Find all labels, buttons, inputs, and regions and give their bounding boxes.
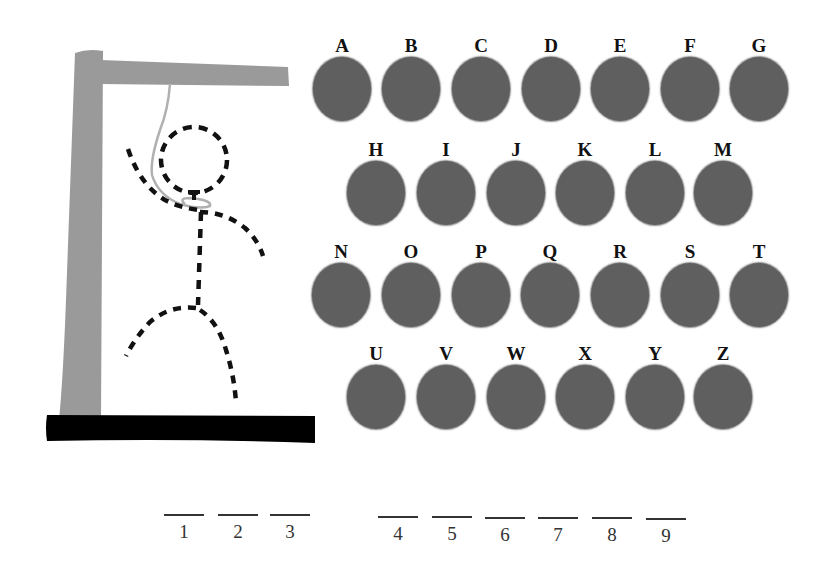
letter-blank-7: 7: [538, 517, 578, 557]
letter-disc[interactable]: [730, 263, 788, 327]
letter-key-g[interactable]: G: [729, 36, 789, 122]
blank-position-number: 8: [592, 524, 632, 546]
letter-blank-5: 5: [432, 516, 472, 556]
letter-key-u[interactable]: U: [346, 344, 406, 430]
blank-underline: [485, 517, 525, 519]
letter-key-label: O: [381, 242, 441, 262]
letter-disc[interactable]: [694, 365, 752, 429]
blank-position-number: 5: [432, 523, 472, 545]
letter-key-p[interactable]: P: [451, 242, 511, 328]
letter-disc[interactable]: [556, 161, 614, 225]
letter-blank-6: 6: [485, 517, 525, 557]
blank-underline: [378, 516, 418, 518]
letter-key-t[interactable]: T: [729, 242, 789, 328]
letter-key-label: M: [693, 140, 753, 160]
letter-disc[interactable]: [417, 365, 475, 429]
blank-position-number: 4: [378, 523, 418, 545]
letter-key-label: F: [660, 36, 720, 56]
letter-disc[interactable]: [556, 365, 614, 429]
letter-key-y[interactable]: Y: [625, 344, 685, 430]
letter-key-w[interactable]: W: [486, 344, 546, 430]
figure-body: [198, 212, 201, 305]
letter-key-label: X: [555, 344, 615, 364]
letter-key-z[interactable]: Z: [693, 344, 753, 430]
letter-disc[interactable]: [382, 263, 440, 327]
letter-blank-4: 4: [378, 516, 418, 556]
letter-key-label: N: [311, 242, 371, 262]
letter-key-k[interactable]: K: [555, 140, 615, 226]
blank-underline: [592, 517, 632, 519]
blank-underline: [646, 518, 686, 520]
letter-blank-9: 9: [646, 518, 686, 558]
letter-key-label: L: [625, 140, 685, 160]
figure-right-arm: [200, 212, 263, 256]
blank-position-number: 3: [270, 521, 310, 543]
letter-disc[interactable]: [591, 263, 649, 327]
gallows-beam: [100, 60, 289, 86]
letter-blank-8: 8: [592, 517, 632, 557]
letter-key-b[interactable]: B: [381, 36, 441, 122]
blank-underline: [164, 514, 204, 516]
letter-key-e[interactable]: E: [590, 36, 650, 122]
letter-blank-3: 3: [270, 514, 310, 554]
letter-key-a[interactable]: A: [312, 36, 372, 122]
letter-key-h[interactable]: H: [346, 140, 406, 226]
letter-blank-2: 2: [218, 514, 258, 554]
letter-disc[interactable]: [661, 57, 719, 121]
letter-key-l[interactable]: L: [625, 140, 685, 226]
letter-key-j[interactable]: J: [486, 140, 546, 226]
letter-disc[interactable]: [452, 263, 510, 327]
letter-key-q[interactable]: Q: [520, 242, 580, 328]
letter-key-label: S: [660, 242, 720, 262]
gallows-post: [59, 50, 103, 420]
letter-key-i[interactable]: I: [416, 140, 476, 226]
letter-key-r[interactable]: R: [590, 242, 650, 328]
letter-disc[interactable]: [730, 57, 788, 121]
letter-key-label: T: [729, 242, 789, 262]
letter-key-label: D: [521, 36, 581, 56]
letter-key-label: Q: [520, 242, 580, 262]
letter-key-f[interactable]: F: [660, 36, 720, 122]
letter-key-label: K: [555, 140, 615, 160]
figure-left-leg: [126, 308, 196, 356]
letter-key-c[interactable]: C: [451, 36, 511, 122]
figure-head: [161, 127, 227, 193]
blank-underline: [432, 516, 472, 518]
letter-key-m[interactable]: M: [693, 140, 753, 226]
blank-position-number: 9: [646, 525, 686, 547]
letter-disc[interactable]: [452, 57, 510, 121]
blank-position-number: 1: [164, 521, 204, 543]
letter-disc[interactable]: [487, 365, 545, 429]
letter-blank-1: 1: [164, 514, 204, 554]
letter-disc[interactable]: [591, 57, 649, 121]
letter-disc[interactable]: [521, 263, 579, 327]
letter-disc[interactable]: [312, 263, 370, 327]
letter-disc[interactable]: [487, 161, 545, 225]
letter-disc[interactable]: [694, 161, 752, 225]
letter-key-s[interactable]: S: [660, 242, 720, 328]
letter-disc[interactable]: [347, 365, 405, 429]
letter-key-o[interactable]: O: [381, 242, 441, 328]
letter-key-label: G: [729, 36, 789, 56]
letter-disc[interactable]: [313, 57, 371, 121]
letter-disc[interactable]: [417, 161, 475, 225]
gallows-illustration: [0, 0, 331, 460]
letter-disc[interactable]: [522, 57, 580, 121]
letter-key-label: Y: [625, 344, 685, 364]
blank-position-number: 6: [485, 524, 525, 546]
letter-disc[interactable]: [382, 57, 440, 121]
letter-disc[interactable]: [661, 263, 719, 327]
blank-underline: [218, 514, 258, 516]
letter-key-label: P: [451, 242, 511, 262]
letter-key-x[interactable]: X: [555, 344, 615, 430]
letter-key-label: I: [416, 140, 476, 160]
letter-disc[interactable]: [626, 365, 684, 429]
letter-disc[interactable]: [347, 161, 405, 225]
letter-key-label: E: [590, 36, 650, 56]
letter-key-n[interactable]: N: [311, 242, 371, 328]
gallows-base: [46, 415, 315, 443]
letter-disc[interactable]: [626, 161, 684, 225]
letter-key-d[interactable]: D: [521, 36, 581, 122]
letter-key-label: U: [346, 344, 406, 364]
letter-key-v[interactable]: V: [416, 344, 476, 430]
